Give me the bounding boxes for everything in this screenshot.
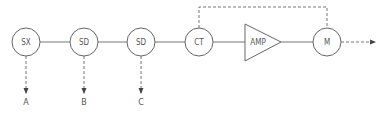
node-sd1: SD bbox=[70, 28, 98, 56]
node-sx: SX bbox=[12, 28, 40, 56]
node-ct-label: CT bbox=[194, 38, 204, 47]
node-sd2: SD bbox=[127, 28, 155, 56]
edge-ct-m-dashed-loop bbox=[199, 7, 327, 28]
node-sx-label: SX bbox=[21, 38, 31, 47]
signal-flow-diagram: SX SD SD CT AMP M A B C bbox=[0, 0, 387, 113]
node-amp: AMP bbox=[245, 24, 281, 61]
node-ct: CT bbox=[185, 28, 213, 56]
node-sd2-label: SD bbox=[136, 38, 147, 47]
node-m: M bbox=[313, 28, 341, 56]
output-label-c: C bbox=[138, 98, 144, 107]
node-m-label: M bbox=[324, 38, 330, 47]
output-label-a: A bbox=[23, 98, 29, 107]
output-label-b: B bbox=[81, 98, 87, 107]
node-amp-label: AMP bbox=[250, 38, 266, 47]
node-sd1-label: SD bbox=[79, 38, 90, 47]
